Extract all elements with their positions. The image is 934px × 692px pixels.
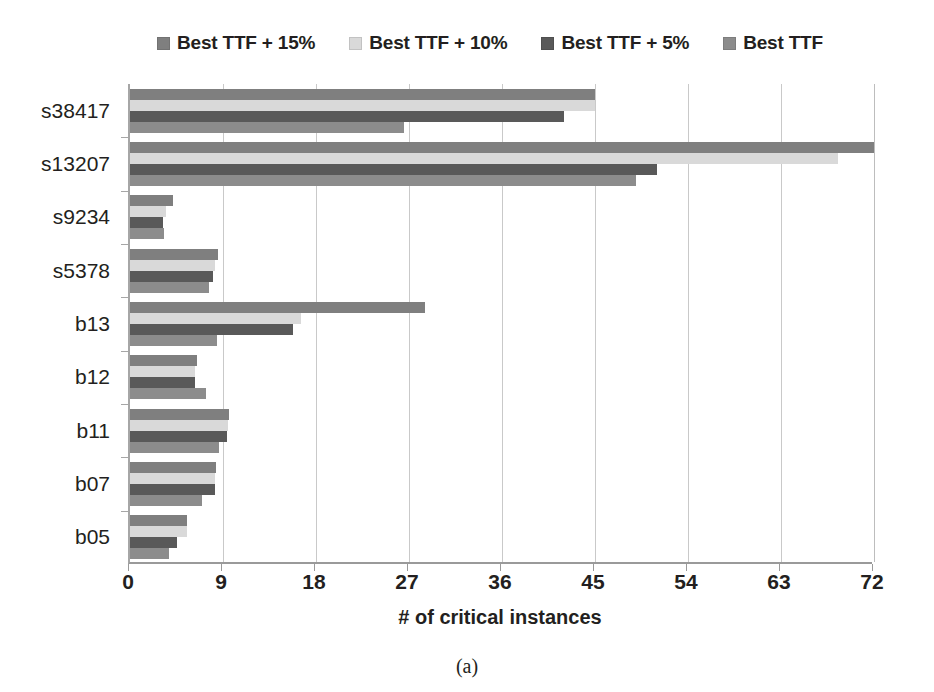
legend-item-1[interactable]: Best TTF + 10%	[349, 32, 507, 54]
bar-b05-series-2[interactable]	[130, 537, 177, 548]
legend-item-label: Best TTF	[743, 32, 823, 54]
bar-group-b11	[130, 407, 872, 455]
bar-s9234-series-2[interactable]	[130, 217, 163, 228]
x-axis-tick-labels: 0918273645546372	[128, 570, 872, 600]
y-axis-label-s13207: s13207	[41, 152, 110, 176]
x-axis-tick-label: 45	[581, 570, 604, 594]
y-axis-category-labels: s38417s13207s9234s5378b13b12b11b07b05	[0, 84, 120, 564]
bar-b13-series-2[interactable]	[130, 324, 293, 335]
x-axis-tick-label: 0	[122, 570, 134, 594]
bar-b07-series-2[interactable]	[130, 484, 215, 495]
legend-item-2[interactable]: Best TTF + 5%	[541, 32, 689, 54]
legend-item-label: Best TTF + 15%	[177, 32, 315, 54]
bar-b05-series-1[interactable]	[130, 526, 187, 537]
legend-swatch-icon	[349, 37, 362, 50]
legend-swatch-icon	[723, 37, 736, 50]
chart-legend: Best TTF + 15%Best TTF + 10%Best TTF + 5…	[100, 28, 880, 58]
bar-group-b05	[130, 513, 872, 561]
bar-s38417-series-3[interactable]	[130, 122, 404, 133]
legend-swatch-icon	[541, 37, 554, 50]
y-axis-tick	[121, 191, 128, 192]
y-axis-label-b11: b11	[77, 419, 110, 443]
x-axis-tick-label: 54	[674, 570, 697, 594]
bar-b11-series-3[interactable]	[130, 442, 219, 453]
bar-s38417-series-0[interactable]	[130, 89, 595, 100]
x-axis-tick-0	[128, 564, 129, 571]
bar-b13-series-0[interactable]	[130, 302, 425, 313]
y-axis-label-s5378: s5378	[53, 259, 110, 283]
legend-item-0[interactable]: Best TTF + 15%	[157, 32, 315, 54]
y-axis-label-s38417: s38417	[41, 99, 110, 123]
bar-b07-series-0[interactable]	[130, 462, 216, 473]
bar-b05-series-0[interactable]	[130, 515, 187, 526]
y-axis-label-b13: b13	[75, 312, 110, 336]
bar-b13-series-3[interactable]	[130, 335, 217, 346]
x-axis-tick-label: 9	[215, 570, 227, 594]
bar-group-b13	[130, 300, 872, 348]
bar-s38417-series-1[interactable]	[130, 100, 595, 111]
y-axis-tick	[121, 137, 128, 138]
bar-s5378-series-1[interactable]	[130, 260, 215, 271]
x-axis-tick-45	[593, 564, 594, 571]
bar-b12-series-2[interactable]	[130, 377, 195, 388]
bar-s5378-series-3[interactable]	[130, 282, 209, 293]
legend-item-3[interactable]: Best TTF	[723, 32, 823, 54]
bar-group-b07	[130, 460, 872, 508]
bar-b11-series-2[interactable]	[130, 431, 227, 442]
x-axis-tick-63	[779, 564, 780, 571]
x-axis-tick-27	[407, 564, 408, 571]
figure-caption: (a)	[0, 655, 934, 678]
bar-s13207-series-1[interactable]	[130, 153, 838, 164]
y-axis-label-s9234: s9234	[53, 205, 110, 229]
x-axis-tick-label: 63	[767, 570, 790, 594]
bar-b07-series-3[interactable]	[130, 495, 202, 506]
legend-item-label: Best TTF + 10%	[369, 32, 507, 54]
bar-s9234-series-1[interactable]	[130, 206, 166, 217]
y-axis-tick	[121, 511, 128, 512]
bar-s13207-series-0[interactable]	[130, 142, 874, 153]
y-axis-tick	[121, 404, 128, 405]
plot-area	[128, 84, 872, 564]
figure-panel-a: Best TTF + 15%Best TTF + 10%Best TTF + 5…	[0, 0, 934, 692]
bar-s13207-series-2[interactable]	[130, 164, 657, 175]
y-axis-label-b05: b05	[75, 525, 110, 549]
bar-b12-series-3[interactable]	[130, 388, 206, 399]
bar-b12-series-0[interactable]	[130, 355, 197, 366]
legend-swatch-icon	[157, 37, 170, 50]
bar-b07-series-1[interactable]	[130, 473, 215, 484]
legend-item-label: Best TTF + 5%	[561, 32, 689, 54]
x-axis-tick-54	[686, 564, 687, 571]
y-axis-label-b07: b07	[75, 472, 110, 496]
y-axis-tick	[121, 351, 128, 352]
y-axis-tick	[121, 244, 128, 245]
y-axis-tick	[121, 297, 128, 298]
gridline-72	[874, 84, 875, 562]
bar-s13207-series-3[interactable]	[130, 175, 636, 186]
bar-b11-series-0[interactable]	[130, 409, 229, 420]
x-axis-title: # of critical instances	[128, 606, 872, 629]
x-axis-tick-18	[314, 564, 315, 571]
y-axis-tick	[121, 457, 128, 458]
bar-group-b12	[130, 353, 872, 401]
bar-group-s9234	[130, 193, 872, 241]
bar-group-s13207	[130, 140, 872, 188]
y-axis-label-b12: b12	[75, 365, 110, 389]
bar-s9234-series-0[interactable]	[130, 195, 173, 206]
bar-b13-series-1[interactable]	[130, 313, 301, 324]
bar-s5378-series-0[interactable]	[130, 249, 218, 260]
bar-b12-series-1[interactable]	[130, 366, 195, 377]
x-axis-tick-36	[500, 564, 501, 571]
x-axis-tick-label: 27	[395, 570, 418, 594]
x-axis-tick-label: 36	[488, 570, 511, 594]
x-axis-tick-72	[872, 564, 873, 571]
bar-b11-series-1[interactable]	[130, 420, 228, 431]
bar-s5378-series-2[interactable]	[130, 271, 213, 282]
bar-s9234-series-3[interactable]	[130, 228, 164, 239]
bar-s38417-series-2[interactable]	[130, 111, 564, 122]
x-axis-tick-label: 18	[302, 570, 325, 594]
bar-group-s38417	[130, 87, 872, 135]
bar-b05-series-3[interactable]	[130, 548, 169, 559]
bar-group-s5378	[130, 247, 872, 295]
x-axis-tick-label: 72	[860, 570, 883, 594]
x-axis-tick-9	[221, 564, 222, 571]
